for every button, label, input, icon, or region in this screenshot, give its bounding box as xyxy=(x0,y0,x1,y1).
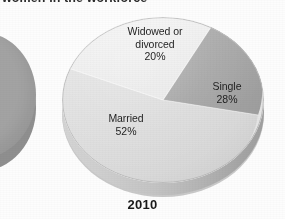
figure-page: women in the workforce xyxy=(0,0,285,219)
pie-label-single-text: Single xyxy=(213,80,242,92)
page-heading-cropped: women in the workforce xyxy=(0,0,150,7)
pie-value-widowed-divorced: 20% xyxy=(105,50,205,63)
pie-label-widowed-line1: Widowed or xyxy=(128,25,183,37)
previous-year-pie-top xyxy=(0,32,36,158)
previous-year-pie-partial xyxy=(0,32,36,182)
page-heading-text: women in the workforce xyxy=(2,0,147,5)
pie-label-married: Married 52% xyxy=(88,112,164,137)
pie-label-single: Single 28% xyxy=(196,80,258,105)
year-label: 2010 xyxy=(0,197,285,212)
pie-label-married-text: Married xyxy=(108,112,143,124)
pie-label-widowed-line2: divorced xyxy=(135,38,174,50)
pie-label-widowed-divorced: Widowed or divorced 20% xyxy=(105,25,205,63)
pie-value-single: 28% xyxy=(196,93,258,106)
pie-value-married: 52% xyxy=(88,125,164,138)
